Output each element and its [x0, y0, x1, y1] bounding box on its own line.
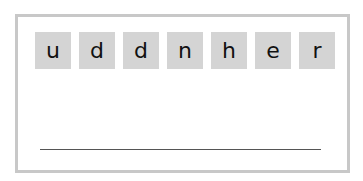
letter-tiles: u d d n h e r: [35, 32, 335, 69]
letter-tile[interactable]: e: [255, 32, 291, 69]
letter-tile[interactable]: d: [79, 32, 115, 69]
puzzle-card: u d d n h e r: [15, 14, 350, 173]
letter-tile[interactable]: n: [167, 32, 203, 69]
letter-tile[interactable]: d: [123, 32, 159, 69]
letter-tile[interactable]: r: [299, 32, 335, 69]
answer-line[interactable]: [40, 149, 321, 150]
letter-tile[interactable]: h: [211, 32, 247, 69]
letter-tile[interactable]: u: [35, 32, 71, 69]
